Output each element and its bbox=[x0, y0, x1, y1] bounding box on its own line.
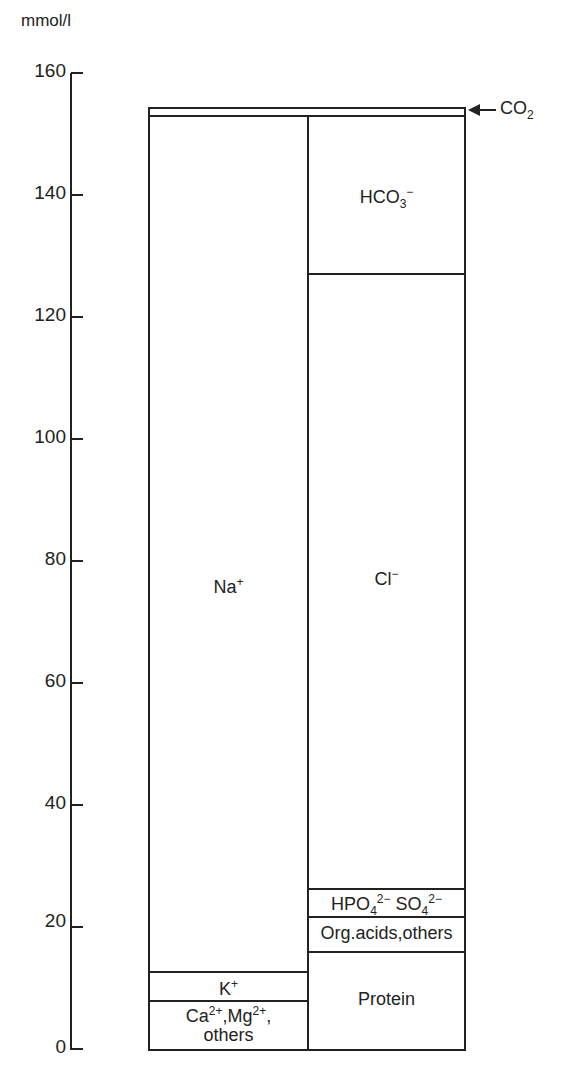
tick-label-60: 60 bbox=[4, 670, 66, 692]
cl-bottom-line bbox=[307, 888, 466, 890]
ca-top-line bbox=[148, 1000, 309, 1002]
tick-60 bbox=[71, 682, 83, 684]
na-label: Na+ bbox=[148, 576, 309, 597]
co2-label: CO2 bbox=[500, 98, 534, 122]
tick-20 bbox=[71, 926, 83, 928]
org-bottom-line bbox=[307, 951, 466, 953]
y-axis-unit: mmol/l bbox=[21, 11, 71, 31]
tick-80 bbox=[71, 560, 83, 562]
tick-0 bbox=[71, 1048, 83, 1050]
co2-arrow-line bbox=[470, 109, 496, 111]
tick-label-40: 40 bbox=[4, 792, 66, 814]
protein-label: Protein bbox=[307, 990, 466, 1009]
tick-100 bbox=[71, 438, 83, 440]
tick-120 bbox=[71, 316, 83, 318]
tick-160 bbox=[71, 72, 83, 74]
tick-140 bbox=[71, 194, 83, 196]
tick-label-80: 80 bbox=[4, 548, 66, 570]
tick-label-120: 120 bbox=[4, 304, 66, 326]
k-top-line bbox=[148, 971, 309, 973]
tick-40 bbox=[71, 804, 83, 806]
hco3-bottom-line bbox=[307, 273, 466, 275]
hco3-label: HCO3− bbox=[307, 186, 466, 210]
tick-label-160: 160 bbox=[4, 60, 66, 82]
tick-label-140: 140 bbox=[4, 182, 66, 204]
k-label: K+ bbox=[148, 978, 309, 999]
tick-label-20: 20 bbox=[4, 910, 66, 932]
hpo4-so4-label: HPO42− SO42− bbox=[307, 893, 466, 917]
tick-label-0: 0 bbox=[4, 1036, 66, 1058]
org-acids-label: Org.acids,others bbox=[307, 924, 466, 943]
tick-label-100: 100 bbox=[4, 426, 66, 448]
cl-label: Cl− bbox=[307, 568, 466, 589]
ca-mg-label: Ca2+,Mg2+,others bbox=[148, 1005, 309, 1045]
